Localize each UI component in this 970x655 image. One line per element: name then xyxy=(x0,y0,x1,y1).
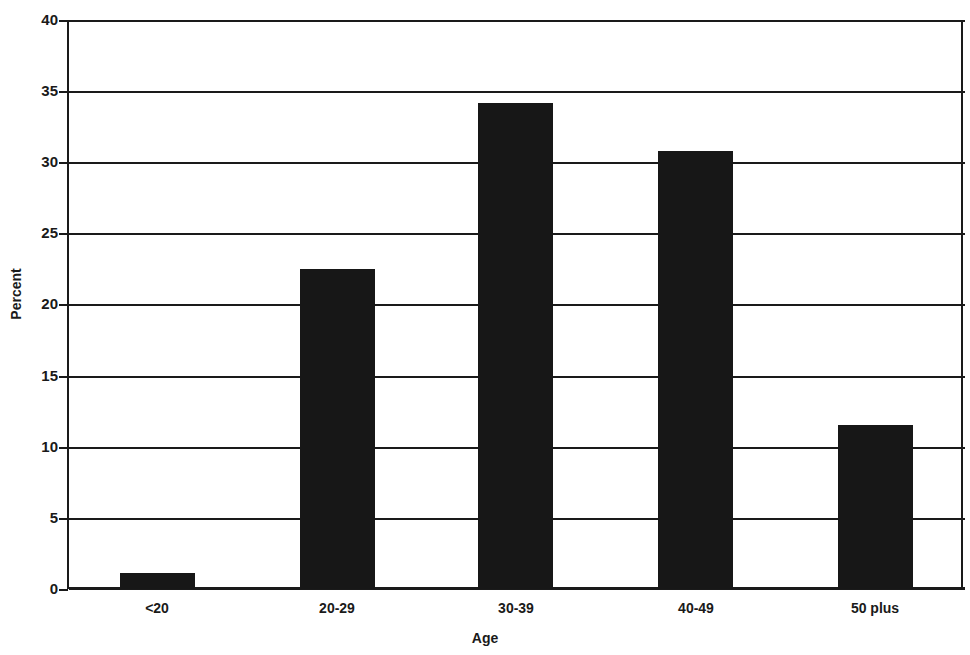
y-tick-label-5: 5 xyxy=(18,510,58,525)
bar-20-29 xyxy=(300,269,375,589)
y-tick-label-35: 35 xyxy=(18,83,58,98)
y-tick-label-30: 30 xyxy=(18,154,58,169)
y-axis-title: Percent xyxy=(8,254,24,334)
x-tick-label-30-39: 30-39 xyxy=(441,600,591,616)
y-tick-label-40: 40 xyxy=(18,12,58,27)
x-axis-title: Age xyxy=(0,630,970,646)
bar-40-49 xyxy=(658,151,733,589)
x-tick-label-20-29: 20-29 xyxy=(262,600,412,616)
y-tick-label-10: 10 xyxy=(18,439,58,454)
bar-50-plus xyxy=(838,425,913,589)
plot-area xyxy=(67,20,963,589)
bar-lt20 xyxy=(120,573,195,589)
y-tick-label-25: 25 xyxy=(18,225,58,240)
y-tick-label-20: 20 xyxy=(18,296,58,311)
y-tick-label-15: 15 xyxy=(18,368,58,383)
bar-30-39 xyxy=(478,103,553,589)
gridline-40 xyxy=(69,20,965,22)
chart-figure: Percent 40 35 30 25 20 15 10 5 0 xyxy=(0,0,970,655)
y-tick-mark-0 xyxy=(59,589,68,591)
gridline-35 xyxy=(69,91,965,93)
x-tick-label-lt20: <20 xyxy=(82,600,232,616)
x-tick-label-50-plus: 50 plus xyxy=(800,600,950,616)
x-tick-label-40-49: 40-49 xyxy=(621,600,771,616)
y-tick-label-0: 0 xyxy=(18,581,58,596)
